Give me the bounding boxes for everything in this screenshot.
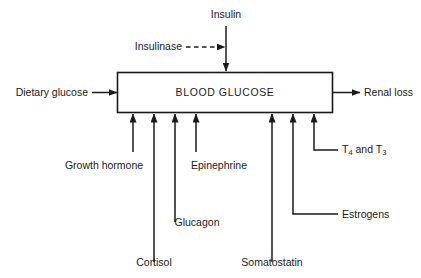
- epinephrine-label: Epinephrine: [191, 160, 247, 171]
- blood-glucose-regulation-diagram: BLOOD GLUCOSE Dietary glucose Renal loss…: [0, 0, 421, 278]
- growth-hormone-label: Growth hormone: [65, 160, 143, 171]
- glucagon-label: Glucagon: [175, 217, 220, 228]
- somatostatin-label: Somatostatin: [241, 257, 302, 268]
- insulinase-label: Insulinase: [135, 41, 182, 52]
- thyroid-subscript-3: 3: [382, 148, 386, 157]
- thyroid-hormones-label: T4 and T3: [342, 144, 386, 155]
- insulin-label: Insulin: [211, 9, 241, 20]
- thyroid-subscript-4: 4: [348, 148, 352, 157]
- renal-loss-label: Renal loss: [364, 87, 413, 98]
- thyroid-hormones-arrow: [314, 114, 338, 150]
- estrogens-arrow: [293, 114, 338, 214]
- box-title: BLOOD GLUCOSE: [176, 86, 275, 98]
- diagram-canvas: [0, 0, 421, 278]
- dietary-glucose-label: Dietary glucose: [16, 87, 88, 98]
- estrogens-label: Estrogens: [342, 209, 389, 220]
- thyroid-middle: and T: [353, 143, 383, 155]
- cortisol-label: Cortisol: [136, 257, 172, 268]
